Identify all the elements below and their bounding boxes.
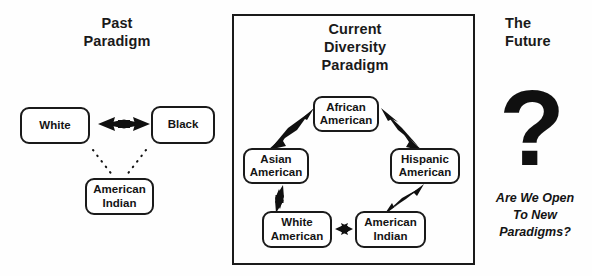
node-white-american[interactable]: White American — [262, 211, 332, 248]
node-african-american[interactable]: African American — [313, 96, 379, 132]
node-asian-american[interactable]: Asian American — [243, 148, 309, 184]
node-white[interactable]: White — [20, 107, 90, 144]
node-american-indian-current[interactable]: American Indian — [355, 211, 426, 248]
diagram-canvas: Past Paradigm Current Diversity Paradigm… — [0, 0, 592, 276]
connector-white-black — [98, 117, 150, 131]
connector-white-americanindian-dotted — [93, 150, 113, 176]
past-paradigm-heading: Past Paradigm — [47, 14, 187, 50]
connector-black-americanindian-dotted — [126, 150, 146, 176]
node-black[interactable]: Black — [151, 106, 215, 144]
node-american-indian-past[interactable]: American Indian — [85, 178, 154, 215]
node-hispanic-american[interactable]: Hispanic American — [390, 148, 460, 184]
the-future-heading: The Future — [505, 14, 585, 50]
future-question-text: Are We Open To New Paradigms? — [478, 190, 592, 241]
question-mark-icon: ? — [492, 72, 572, 184]
